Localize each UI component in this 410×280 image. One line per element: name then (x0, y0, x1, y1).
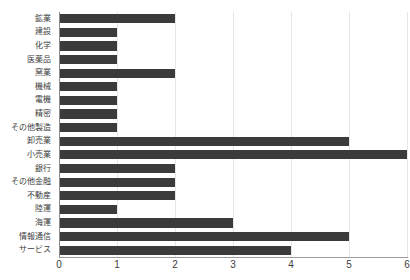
bar (59, 205, 117, 214)
bar-row (59, 66, 407, 80)
y-axis-label: 機械 (35, 83, 51, 91)
y-axis-label: 化学 (35, 42, 51, 50)
bar-row (59, 26, 407, 40)
y-axis-label-row: 窯業 (0, 66, 55, 80)
bar (59, 178, 175, 187)
y-axis-label-row: 建設 (0, 26, 55, 40)
bar (59, 82, 117, 91)
gridline-x-0 (59, 12, 60, 257)
x-axis-tick-label: 2 (172, 260, 178, 270)
y-axis-label-row: その他製造 (0, 121, 55, 135)
y-axis-label-row: 機械 (0, 80, 55, 94)
bar-row (59, 12, 407, 26)
bar-row (59, 162, 407, 176)
y-axis-label: 不動産 (27, 192, 51, 200)
bar (59, 164, 175, 173)
y-axis-label-row: 情報通信 (0, 230, 55, 244)
bar (59, 218, 233, 227)
y-axis-label: その他製造 (11, 124, 51, 132)
bar-row (59, 189, 407, 203)
bar-row (59, 107, 407, 121)
x-axis-tick-labels: 0123456 (0, 260, 410, 276)
bar-chart: 鉱業建設化学医薬品窯業機械電機精密その他製造卸売業小売業銀行その他金融不動産陸運… (0, 0, 410, 280)
bar-row (59, 203, 407, 217)
x-axis-tick-label: 6 (404, 260, 410, 270)
y-axis-label-row: 小売業 (0, 148, 55, 162)
x-axis-line (59, 257, 408, 258)
bar-row (59, 216, 407, 230)
y-axis-label: 小売業 (27, 151, 51, 159)
bar (59, 41, 117, 50)
x-axis-tick-label: 3 (230, 260, 236, 270)
bar (59, 55, 117, 64)
bar (59, 232, 349, 241)
y-axis-label: サービス (19, 246, 51, 254)
bar (59, 14, 175, 23)
y-axis-label: 陸運 (35, 205, 51, 213)
y-axis-label-row: 医薬品 (0, 53, 55, 67)
bar-series (59, 12, 407, 257)
y-axis-label-row: 卸売業 (0, 134, 55, 148)
bar (59, 109, 117, 118)
gridline-x-6 (407, 12, 408, 257)
bar-row (59, 148, 407, 162)
bar-row (59, 121, 407, 135)
y-axis-label-row: 電機 (0, 94, 55, 108)
x-axis-tick-label: 1 (114, 260, 120, 270)
x-axis-tick-label: 4 (288, 260, 294, 270)
y-axis-label: 銀行 (35, 165, 51, 173)
bar-row (59, 80, 407, 94)
y-axis-label: 電機 (35, 96, 51, 104)
bar-row (59, 39, 407, 53)
bar (59, 191, 175, 200)
bar (59, 123, 117, 132)
bar-row (59, 243, 407, 257)
y-axis-label-row: サービス (0, 243, 55, 257)
x-axis-tick-label: 0 (56, 260, 62, 270)
y-axis-label: 窯業 (35, 69, 51, 77)
y-axis-label-row: 海運 (0, 216, 55, 230)
y-axis-label: 卸売業 (27, 137, 51, 145)
bar (59, 137, 349, 146)
y-axis-label: 医薬品 (27, 56, 51, 64)
y-axis-label: 海運 (35, 219, 51, 227)
bar (59, 69, 175, 78)
bar-row (59, 134, 407, 148)
plot-area (59, 12, 407, 257)
y-axis-category-labels: 鉱業建設化学医薬品窯業機械電機精密その他製造卸売業小売業銀行その他金融不動産陸運… (0, 12, 55, 257)
y-axis-label-row: 鉱業 (0, 12, 55, 26)
y-axis-label-row: 精密 (0, 107, 55, 121)
bar-row (59, 230, 407, 244)
y-axis-label: 建設 (35, 28, 51, 36)
y-axis-label-row: 銀行 (0, 162, 55, 176)
bar-row (59, 175, 407, 189)
bar (59, 246, 291, 255)
y-axis-label-row: 陸運 (0, 203, 55, 217)
y-axis-label: 情報通信 (19, 233, 51, 241)
y-axis-label-row: 不動産 (0, 189, 55, 203)
y-axis-label: その他金融 (11, 178, 51, 186)
y-axis-label-row: 化学 (0, 39, 55, 53)
bar-row (59, 94, 407, 108)
bar (59, 96, 117, 105)
y-axis-label: 精密 (35, 110, 51, 118)
bar (59, 28, 117, 37)
bar (59, 150, 407, 159)
y-axis-label-row: その他金融 (0, 175, 55, 189)
x-axis-tick-label: 5 (346, 260, 352, 270)
y-axis-label: 鉱業 (35, 15, 51, 23)
bar-row (59, 53, 407, 67)
